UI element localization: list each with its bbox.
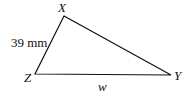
vertex-label-x: X [57, 0, 67, 15]
side-label-zy: w [98, 79, 107, 94]
vertex-label-y: Y [174, 68, 183, 83]
triangle-diagram: X Y Z 39 mm w [0, 0, 189, 100]
side-label-xz: 39 mm [11, 35, 47, 50]
vertex-label-z: Z [24, 70, 32, 85]
triangle-xyz [35, 16, 171, 75]
